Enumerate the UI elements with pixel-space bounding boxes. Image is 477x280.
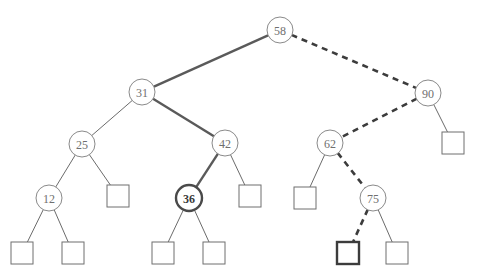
tree-node-label-36: 36 [183, 192, 195, 206]
tree-leaf-l62l[interactable] [294, 187, 316, 209]
tree-node-62[interactable]: 62 [317, 130, 343, 156]
tree-node-31[interactable]: 31 [129, 79, 155, 105]
tree-edge-n36-l36l [168, 209, 183, 242]
tree-leaf-l90r[interactable] [442, 132, 464, 154]
tree-leaf-l36r[interactable] [203, 242, 225, 264]
tree-edge-n62-n75 [338, 153, 366, 188]
tree-node-label-75: 75 [367, 192, 379, 206]
tree-leaf-l36l[interactable] [152, 242, 174, 264]
tree-edge-n31-n42 [153, 99, 215, 137]
tree-node-12[interactable]: 12 [36, 185, 62, 211]
tree-edge-n12-l12l [27, 209, 43, 242]
tree-edge-n25-l25r [89, 154, 110, 185]
tree-node-36[interactable]: 36 [176, 185, 202, 211]
tree-leaf-l75l[interactable] [337, 242, 359, 264]
tree-node-90[interactable]: 90 [415, 80, 441, 106]
tree-edge-n31-n25 [91, 100, 132, 136]
tree-node-label-42: 42 [219, 137, 231, 151]
tree-leaf-l12l[interactable] [11, 242, 33, 264]
tree-edge-n62-l62l [310, 154, 325, 187]
tree-edge-n75-l75l [353, 209, 368, 242]
tree-leaf-l42r[interactable] [239, 185, 261, 207]
tree-node-label-58: 58 [274, 24, 286, 38]
tree-edge-n42-l42r [230, 154, 244, 185]
tree-edge-n90-l90r [434, 104, 448, 132]
tree-edge-n42-n36 [196, 153, 218, 187]
tree-node-label-62: 62 [324, 137, 336, 151]
binary-tree-figure: 583190254262123675 [0, 0, 477, 280]
tree-edge-n58-n90 [292, 35, 417, 88]
tree-node-label-25: 25 [76, 138, 88, 152]
tree-edge-n75-l75r [378, 209, 392, 242]
tree-edge-n58-n31 [153, 35, 268, 87]
tree-leaf-l12r[interactable] [62, 242, 84, 264]
tree-leaf-l25r[interactable] [107, 185, 129, 207]
tree-node-label-12: 12 [43, 192, 55, 206]
tree-edge-n25-n12 [56, 155, 76, 188]
node-layer: 583190254262123675 [36, 17, 441, 211]
tree-node-42[interactable]: 42 [212, 130, 238, 156]
tree-node-75[interactable]: 75 [360, 185, 386, 211]
tree-canvas: 583190254262123675 [0, 0, 477, 280]
tree-node-label-31: 31 [136, 86, 148, 100]
tree-node-25[interactable]: 25 [69, 131, 95, 157]
tree-edge-n36-l36r [194, 209, 209, 242]
tree-node-label-90: 90 [422, 87, 434, 101]
tree-edge-n12-l12r [54, 209, 68, 242]
tree-leaf-l75r[interactable] [386, 242, 408, 264]
tree-edge-n90-n62 [341, 99, 417, 138]
tree-node-58[interactable]: 58 [267, 17, 293, 43]
